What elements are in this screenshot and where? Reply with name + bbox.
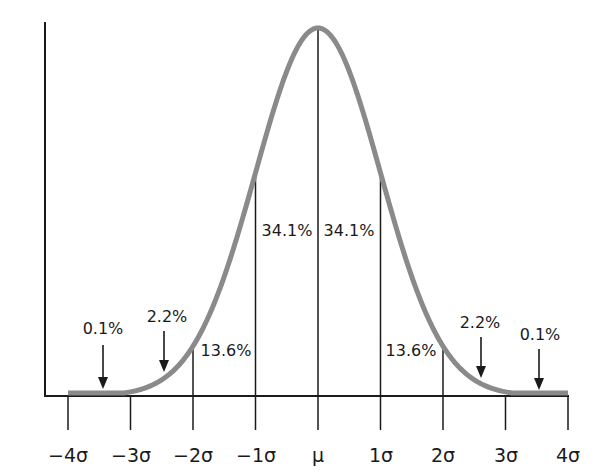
normal-distribution-chart: −4σ −3σ −2σ −1σ μ 1σ 2σ 3σ 4σ 0.1% 2.2% … [0, 0, 609, 472]
band-label-left-13-6: 13.6% [201, 341, 252, 360]
x-axis-ticks [68, 396, 568, 430]
tick-label-minus-3-sigma: −3σ [111, 444, 151, 466]
band-label-right-13-6: 13.6% [386, 341, 437, 360]
band-label-right-2-2: 2.2% [460, 313, 501, 332]
tick-label-minus-1-sigma: −1σ [236, 444, 276, 466]
tick-label-minus-2-sigma: −2σ [173, 444, 213, 466]
arrow-down-icon [98, 345, 108, 389]
tick-label-3-sigma: 3σ [494, 444, 518, 466]
tick-label-1-sigma: 1σ [369, 444, 393, 466]
x-tick-labels: −4σ −3σ −2σ −1σ μ 1σ 2σ 3σ 4σ [48, 444, 580, 466]
band-labels: 0.1% 2.2% 13.6% 34.1% 34.1% 13.6% 2.2% 0… [83, 221, 561, 360]
tick-label-mu: μ [312, 444, 324, 466]
band-label-left-tail: 0.1% [83, 319, 124, 338]
tick-label-4-sigma: 4σ [556, 444, 580, 466]
band-label-left-34-1: 34.1% [262, 221, 313, 240]
tick-label-2-sigma: 2σ [431, 444, 455, 466]
band-label-right-34-1: 34.1% [324, 221, 375, 240]
band-label-right-tail: 0.1% [520, 325, 561, 344]
arrow-down-icon [534, 349, 544, 390]
arrow-down-icon [159, 331, 169, 372]
band-label-left-2-2: 2.2% [147, 307, 188, 326]
arrow-down-icon [476, 337, 486, 378]
tick-label-minus-4-sigma: −4σ [48, 444, 88, 466]
